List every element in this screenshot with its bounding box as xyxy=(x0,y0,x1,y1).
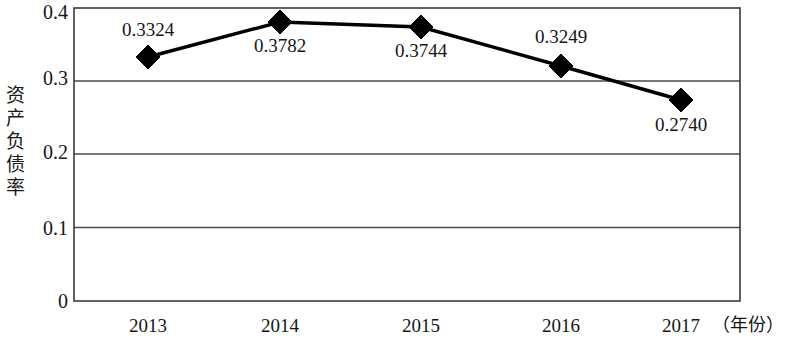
y-axis-tick-label-0.1: 0.1 xyxy=(24,218,68,238)
y-axis-title-char: 产 xyxy=(2,107,28,130)
data-point-marker-2016 xyxy=(549,54,573,78)
x-axis-tick-label-2015: 2015 xyxy=(381,316,461,336)
x-axis-tick-label-2017: 2017 xyxy=(641,316,721,336)
x-axis-unit-label: （年份） xyxy=(712,315,790,336)
x-axis-tick-label-2016: 2016 xyxy=(521,316,601,336)
x-axis-tick-label-2013: 2013 xyxy=(108,316,188,336)
data-label-2013: 0.3324 xyxy=(100,20,196,40)
data-label-2016: 0.3249 xyxy=(513,27,609,47)
data-point-marker-2017 xyxy=(669,88,693,112)
data-point-marker-2014 xyxy=(268,10,292,34)
y-axis-tick-label-0: 0 xyxy=(24,291,68,311)
data-label-2017: 0.2740 xyxy=(633,115,729,135)
data-label-2015: 0.3744 xyxy=(373,41,469,61)
data-point-marker-2015 xyxy=(409,15,433,39)
y-axis-tick-label-0.3: 0.3 xyxy=(24,68,68,88)
y-axis-tick-label-0.2: 0.2 xyxy=(24,142,68,162)
data-point-marker-2013 xyxy=(136,45,160,69)
data-label-2014: 0.3782 xyxy=(232,36,328,56)
y-axis-tick-label-0.4: 0.4 xyxy=(24,2,68,22)
asset-liability-ratio-line-chart: 资 产 负 债 率 0.4 0.3 0.2 0.1 0 0.3324 0.378… xyxy=(0,0,790,343)
y-axis-title-char: 率 xyxy=(2,176,28,199)
x-axis-tick-label-2014: 2014 xyxy=(240,316,320,336)
